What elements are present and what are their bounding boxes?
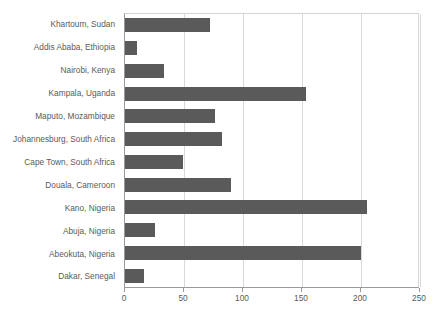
category-axis: Khartoum, SudanAddis Ababa, EthiopiaNair… <box>0 13 120 288</box>
category-label-cell: Cape Town, South Africa <box>0 151 120 174</box>
bar-row <box>125 151 418 174</box>
bar <box>125 64 164 78</box>
x-tick-label: 150 <box>294 294 308 302</box>
bar-row <box>125 196 418 219</box>
bar-row <box>125 82 418 105</box>
category-label-cell: Abuja, Nigeria <box>0 219 120 242</box>
bar <box>125 269 144 283</box>
bar-row <box>125 128 418 151</box>
bar <box>125 178 231 192</box>
category-label-cell: Kampala, Uganda <box>0 82 120 105</box>
category-label-cell: Abeokuta, Nigeria <box>0 242 120 265</box>
category-label: Nairobi, Kenya <box>61 66 115 74</box>
gridline <box>420 14 421 287</box>
category-label: Abuja, Nigeria <box>63 227 115 235</box>
bar-row <box>125 242 418 265</box>
category-label-cell: Maputo, Mozambique <box>0 105 120 128</box>
category-label-cell: Khartoum, Sudan <box>0 13 120 36</box>
bar-row <box>125 173 418 196</box>
bar <box>125 200 367 214</box>
category-label: Cape Town, South Africa <box>24 158 115 166</box>
x-tick-mark <box>360 288 361 292</box>
bars-layer <box>125 14 418 287</box>
bar <box>125 132 222 146</box>
bar <box>125 223 155 237</box>
category-label: Dakar, Senegal <box>58 272 115 280</box>
category-label-cell: Nairobi, Kenya <box>0 59 120 82</box>
x-tick-label: 0 <box>122 294 127 302</box>
category-label-cell: Dakar, Senegal <box>0 265 120 288</box>
bar-row <box>125 219 418 242</box>
x-tick-label: 50 <box>178 294 187 302</box>
bar <box>125 41 137 55</box>
bar-row <box>125 105 418 128</box>
x-tick-mark <box>301 288 302 292</box>
category-label: Kampala, Uganda <box>49 89 115 97</box>
category-label: Maputo, Mozambique <box>35 112 115 120</box>
x-tick-mark <box>183 288 184 292</box>
x-tick-label: 100 <box>235 294 249 302</box>
category-label-cell: Douala, Cameroon <box>0 173 120 196</box>
category-label-cell: Addis Ababa, Ethiopia <box>0 36 120 59</box>
category-label: Douala, Cameroon <box>45 181 115 189</box>
bar <box>125 246 361 260</box>
category-label: Abeokuta, Nigeria <box>49 250 115 258</box>
x-tick-mark <box>419 288 420 292</box>
category-label: Kano, Nigeria <box>65 204 115 212</box>
bar <box>125 87 306 101</box>
bar-row <box>125 60 418 83</box>
x-axis: 050100150200250 <box>124 288 419 312</box>
bar-chart: Khartoum, SudanAddis Ababa, EthiopiaNair… <box>0 0 438 314</box>
x-tick-label: 200 <box>353 294 367 302</box>
category-label: Johannesburg, South Africa <box>13 135 115 143</box>
category-label-cell: Kano, Nigeria <box>0 196 120 219</box>
bar <box>125 18 210 32</box>
category-label: Khartoum, Sudan <box>50 20 115 28</box>
category-label: Addis Ababa, Ethiopia <box>34 43 115 51</box>
plot-area <box>124 13 419 288</box>
bar <box>125 155 183 169</box>
bar-row <box>125 14 418 37</box>
x-tick-mark <box>124 288 125 292</box>
bar <box>125 109 215 123</box>
category-label-cell: Johannesburg, South Africa <box>0 128 120 151</box>
bar-row <box>125 264 418 287</box>
x-tick-label: 250 <box>412 294 426 302</box>
bar-row <box>125 37 418 60</box>
x-tick-mark <box>242 288 243 292</box>
